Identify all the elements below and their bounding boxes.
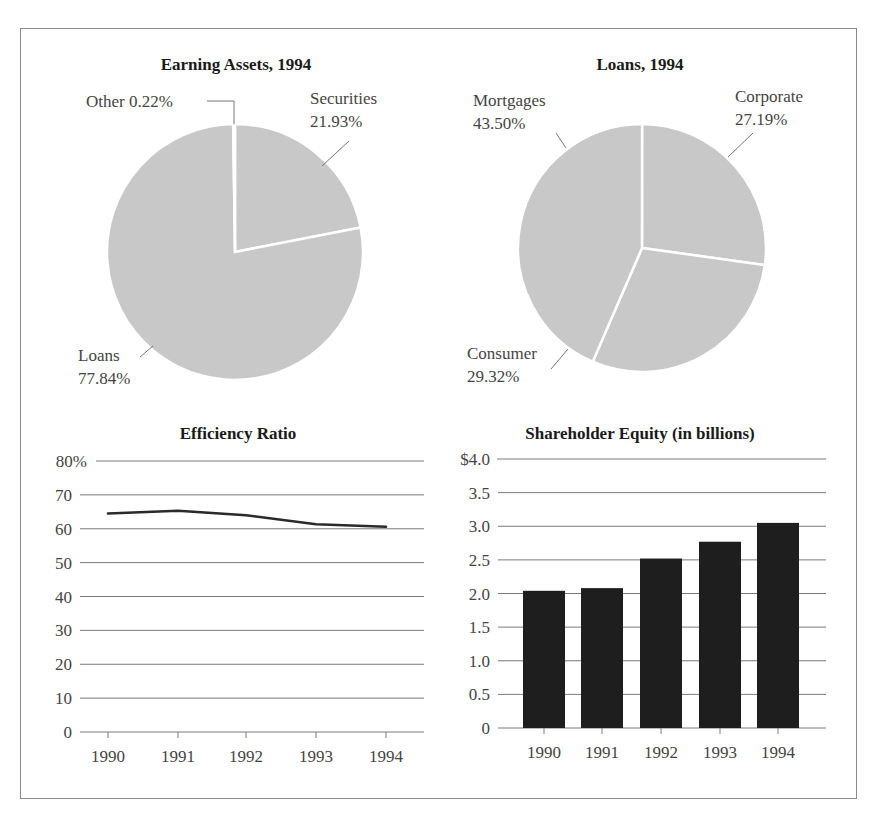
y-tick-label: 10 (55, 689, 72, 708)
y-tick-label: 2.0 (469, 585, 490, 604)
slice-label-loans: Loans (78, 346, 120, 365)
chart-title: Loans, 1994 (597, 55, 684, 74)
slice-value-mortgages: 43.50% (473, 114, 525, 133)
slice-label-mortgages: Mortgages (473, 91, 546, 110)
leader-line (207, 101, 234, 124)
bar-1993 (699, 542, 741, 728)
y-tick-label: 1.5 (469, 618, 490, 637)
pie-slice-corporate (642, 124, 766, 265)
y-tick-label: 3.0 (469, 517, 490, 536)
x-tick-label: 1994 (761, 743, 796, 762)
y-tick-label: 70 (55, 486, 72, 505)
x-tick-label: 1993 (299, 747, 333, 766)
y-tick-label: 3.5 (469, 484, 490, 503)
loans-pie-chart: Loans, 1994 Corporate 27.19% Mortgages 4… (467, 55, 803, 386)
y-tick-label: 80% (56, 452, 87, 471)
y-tick-label: 50 (55, 554, 72, 573)
shareholder-equity-bar-chart: Shareholder Equity (in billions) 00.51.0… (460, 424, 826, 762)
efficiency-ratio-line (108, 511, 386, 527)
slice-value-corporate: 27.19% (735, 110, 787, 129)
slice-value-consumer: 29.32% (467, 367, 519, 386)
y-tick-label: 20 (55, 655, 72, 674)
bar-1992 (640, 559, 682, 728)
x-tick-label: 1994 (369, 747, 404, 766)
leader-line (728, 133, 753, 157)
y-tick-label: 30 (55, 621, 72, 640)
charts-canvas: Earning Assets, 1994 Other 0.22% Securit… (0, 0, 881, 826)
chart-title: Shareholder Equity (in billions) (525, 424, 754, 443)
earning-assets-pie-chart: Earning Assets, 1994 Other 0.22% Securit… (78, 55, 377, 388)
bar-1990 (523, 591, 565, 728)
x-tick-label: 1992 (229, 747, 263, 766)
leader-line (551, 349, 568, 369)
y-tick-label: 40 (55, 588, 72, 607)
y-tick-label: 0 (64, 723, 73, 742)
x-tick-label: 1990 (527, 743, 561, 762)
x-tick-label: 1990 (91, 747, 125, 766)
x-tick-label: 1993 (703, 743, 737, 762)
bar-1994 (757, 523, 799, 728)
bar-1991 (581, 588, 623, 728)
slice-label-other: Other 0.22% (86, 92, 173, 111)
leader-line (140, 346, 153, 357)
chart-title: Efficiency Ratio (180, 424, 297, 443)
slice-label-securities: Securities (310, 89, 377, 108)
y-tick-label: 0.5 (469, 685, 490, 704)
slice-label-corporate: Corporate (735, 87, 803, 106)
efficiency-ratio-line-chart: Efficiency Ratio 01020304050607080% 1990… (55, 424, 424, 766)
slice-label-consumer: Consumer (467, 344, 537, 363)
y-tick-label: 0 (482, 719, 491, 738)
y-tick-label: 60 (55, 520, 72, 539)
slice-value-securities: 21.93% (310, 112, 362, 131)
y-tick-label: 1.0 (469, 652, 490, 671)
leader-line (322, 141, 349, 166)
x-tick-label: 1991 (585, 743, 619, 762)
x-tick-label: 1991 (161, 747, 195, 766)
chart-title: Earning Assets, 1994 (161, 55, 312, 74)
y-tick-label: 2.5 (469, 551, 490, 570)
slice-value-loans: 77.84% (78, 369, 130, 388)
x-tick-label: 1992 (644, 743, 678, 762)
leader-line (556, 133, 566, 148)
y-tick-label: $4.0 (460, 450, 490, 469)
